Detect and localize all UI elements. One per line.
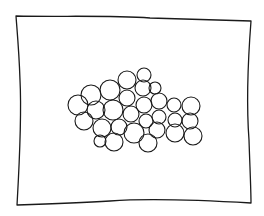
circle [105,133,123,151]
circle [93,119,111,137]
circle [182,97,200,115]
sketch-canvas [0,0,264,216]
circle [149,122,165,138]
circle [136,97,152,113]
circle [119,90,135,106]
circle [139,114,153,128]
circle [103,100,123,120]
circle [184,127,202,145]
circle [111,119,127,135]
circle [118,71,136,89]
circle [167,98,181,112]
circle [151,93,167,109]
hand-drawn-frame [16,16,251,205]
circle-cluster [68,68,202,152]
circle [75,112,93,130]
circle [139,134,157,152]
circle [100,80,120,100]
